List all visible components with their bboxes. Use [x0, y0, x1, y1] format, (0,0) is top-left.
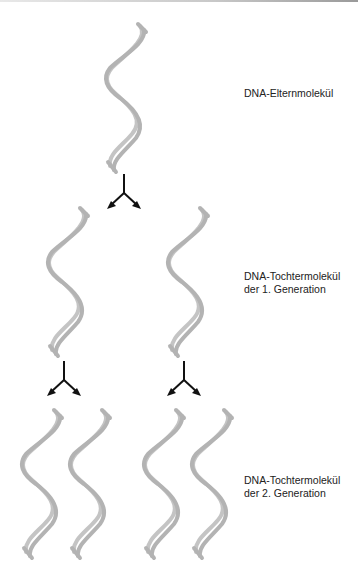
- label-gen1-line2: der 1. Generation: [244, 283, 340, 296]
- parent-dna-helix: [106, 24, 146, 172]
- gen2-dna-helix-3: [144, 410, 184, 558]
- split-arrow-gen1-right: [167, 361, 201, 396]
- label-gen2-line2: der 2. Generation: [244, 487, 340, 500]
- label-gen2-line1: DNA-Tochtermolekül: [244, 474, 340, 487]
- label-gen2-molecule: DNA-Tochtermolekül der 2. Generation: [244, 474, 340, 500]
- label-parent-line1: DNA-Elternmolekül: [244, 87, 333, 100]
- label-gen1-line1: DNA-Tochtermolekül: [244, 270, 340, 283]
- gen2-dna-helix-2: [70, 410, 110, 558]
- split-arrow-gen1-left: [47, 361, 81, 396]
- split-arrow-parent: [107, 174, 141, 209]
- gen1-dna-helix-right: [168, 208, 208, 356]
- gen2-dna-helix-1: [22, 410, 62, 558]
- label-parent-molecule: DNA-Elternmolekül: [244, 87, 333, 100]
- label-gen1-molecule: DNA-Tochtermolekül der 1. Generation: [244, 270, 340, 296]
- gen1-dna-helix-left: [48, 208, 88, 356]
- gen2-dna-helix-4: [192, 410, 232, 558]
